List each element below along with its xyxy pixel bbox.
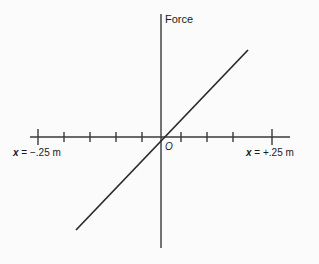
right-label-value: = +.25 m xyxy=(252,147,294,158)
x-axis-right-endpoint-label: x = +.25 m xyxy=(246,148,294,158)
origin-label: O xyxy=(165,142,173,152)
y-axis-title: Force xyxy=(165,14,193,25)
plot-canvas xyxy=(0,0,319,264)
x-axis-left-endpoint-label: x = −.25 m xyxy=(13,148,61,158)
data-line-force xyxy=(76,50,248,230)
left-label-value: = −.25 m xyxy=(19,147,61,158)
force-displacement-graph: Force O x = −.25 m x = +.25 m xyxy=(0,0,319,264)
